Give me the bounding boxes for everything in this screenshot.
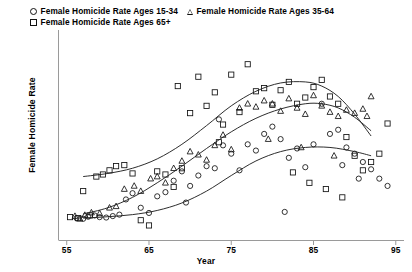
plot-canvas: [0, 0, 412, 272]
data-point-circle: [179, 169, 184, 174]
data-point-square: [107, 168, 112, 173]
data-point-circle: [262, 131, 267, 136]
data-point-square: [336, 101, 341, 106]
data-point-square: [307, 180, 312, 185]
x-tick-label: 95: [391, 245, 401, 255]
data-point-square: [146, 223, 151, 228]
data-point-circle: [303, 165, 308, 170]
data-point-square: [323, 186, 328, 191]
data-point-circle: [204, 164, 209, 169]
fitted-curve: [83, 103, 371, 214]
data-point-square: [340, 195, 345, 200]
data-point-circle: [104, 215, 109, 220]
data-point-triangle: [162, 180, 168, 186]
data-point-triangle: [364, 113, 370, 119]
data-point-circle: [171, 178, 176, 183]
data-point-triangle: [368, 93, 374, 99]
data-point-square: [245, 62, 250, 67]
data-point-triangle: [245, 101, 251, 107]
data-point-square: [327, 94, 332, 99]
data-point-square: [212, 90, 217, 95]
data-point-triangle: [179, 158, 185, 164]
data-point-triangle: [286, 95, 292, 101]
data-point-circle: [245, 142, 250, 147]
data-point-square: [204, 103, 209, 108]
data-point-circle: [340, 163, 345, 168]
data-point-triangle: [204, 157, 210, 163]
data-points-layer: [67, 62, 390, 228]
data-point-square: [175, 83, 180, 88]
data-point-triangle: [331, 153, 337, 159]
data-point-square: [385, 121, 390, 126]
data-point-circle: [385, 183, 390, 188]
data-point-circle: [327, 131, 332, 136]
data-point-square: [113, 164, 118, 169]
x-tick-label: 55: [62, 245, 72, 255]
fitted-curves-layer: [83, 82, 371, 219]
data-point-triangle: [269, 101, 275, 107]
fitted-curve: [83, 147, 371, 218]
data-point-square: [220, 122, 225, 127]
x-tick-label: 75: [226, 245, 236, 255]
data-point-circle: [212, 166, 217, 171]
data-point-square: [196, 74, 201, 79]
data-point-circle: [286, 155, 291, 160]
data-point-square: [377, 151, 382, 156]
series-points: [74, 101, 390, 221]
data-point-triangle: [131, 183, 137, 189]
data-point-square: [122, 163, 127, 168]
data-point-square: [138, 218, 143, 223]
data-point-square: [368, 159, 373, 164]
data-point-circle: [278, 137, 283, 142]
x-tick-label: 85: [309, 245, 319, 255]
data-point-triangle: [171, 165, 177, 171]
data-point-circle: [155, 194, 160, 199]
data-point-square: [67, 215, 72, 220]
data-point-triangle: [302, 111, 308, 117]
data-point-square: [311, 85, 316, 90]
data-point-square: [278, 88, 283, 93]
data-point-triangle: [253, 104, 259, 110]
axis-lines: [59, 30, 405, 245]
data-point-circle: [270, 124, 275, 129]
data-point-triangle: [335, 113, 341, 119]
data-point-triangle: [121, 186, 127, 192]
data-point-circle: [336, 127, 341, 132]
data-point-circle: [253, 148, 258, 153]
data-point-square: [188, 111, 193, 116]
data-point-circle: [311, 142, 316, 147]
data-point-square: [229, 72, 234, 77]
data-point-circle: [377, 176, 382, 181]
data-point-circle: [146, 210, 151, 215]
data-point-square: [130, 171, 135, 176]
data-point-circle: [196, 173, 201, 178]
y-axis-label: Female Homicide Rate: [27, 45, 37, 205]
data-point-circle: [188, 183, 193, 188]
data-point-triangle: [327, 109, 333, 115]
x-axis-label: Year: [0, 256, 412, 266]
data-point-circle: [138, 205, 143, 210]
data-point-triangle: [148, 175, 154, 181]
data-point-square: [319, 77, 324, 82]
data-point-circle: [356, 176, 361, 181]
data-point-square: [344, 134, 349, 139]
data-point-circle: [130, 191, 135, 196]
data-point-square: [290, 170, 295, 175]
data-point-triangle: [265, 136, 271, 142]
data-point-triangle: [360, 106, 366, 112]
data-point-circle: [368, 167, 373, 172]
chart-figure: Female Homicide Rate Ages 15-34 Female H…: [0, 0, 412, 272]
x-tick-label: 65: [144, 245, 154, 255]
data-point-triangle: [311, 92, 317, 98]
data-point-square: [81, 189, 86, 194]
data-point-square: [360, 168, 365, 173]
plot-area: 5565758595: [0, 0, 412, 272]
data-point-circle: [360, 159, 365, 164]
data-point-circle: [282, 209, 287, 214]
data-point-triangle: [261, 97, 267, 103]
data-point-square: [171, 184, 176, 189]
data-point-square: [303, 95, 308, 100]
data-point-circle: [163, 190, 168, 195]
data-point-triangle: [220, 132, 226, 138]
data-point-triangle: [187, 148, 193, 154]
